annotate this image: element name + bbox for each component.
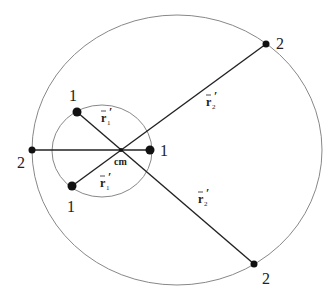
center-of-mass-dot bbox=[119, 148, 123, 152]
vector-r2-prime-lower: r 2 ′ bbox=[198, 186, 209, 208]
svg-text:1: 1 bbox=[106, 184, 110, 192]
body1-label-right: 1 bbox=[160, 142, 168, 159]
body2-dot-left bbox=[29, 147, 36, 154]
cm-label: cm bbox=[114, 156, 127, 167]
body2-label-lower-right: 2 bbox=[262, 270, 270, 287]
body2-dot-lower-right bbox=[251, 261, 258, 268]
body1-dot-right bbox=[146, 146, 155, 155]
svg-text:′: ′ bbox=[108, 170, 111, 184]
svg-text:1: 1 bbox=[107, 119, 111, 127]
svg-text:′: ′ bbox=[109, 105, 112, 119]
svg-text:2: 2 bbox=[212, 103, 216, 111]
svg-text:′: ′ bbox=[206, 186, 209, 200]
body1-dot-lower-left bbox=[68, 182, 77, 191]
body1-dot-upper-left bbox=[73, 108, 82, 117]
vector-r1-prime-lower: r 1 ′ bbox=[100, 170, 111, 192]
svg-text:2: 2 bbox=[204, 200, 208, 208]
vector-r1-prime-upper: r 1 ′ bbox=[101, 105, 112, 127]
vector-r2-prime-upper: r 2 ′ bbox=[206, 89, 217, 111]
body2-label-left: 2 bbox=[17, 154, 25, 171]
body1-label-upper: 1 bbox=[69, 87, 77, 104]
body2-label-upper-right: 2 bbox=[276, 35, 284, 52]
body1-label-lower: 1 bbox=[67, 198, 75, 215]
body2-dot-upper-right bbox=[263, 41, 270, 48]
svg-text:′: ′ bbox=[214, 89, 217, 103]
two-body-cm-diagram: cm 1 1 1 2 2 2 r 1 ′ r 1 ′ r 2 ′ r 2 ′ bbox=[0, 0, 335, 301]
